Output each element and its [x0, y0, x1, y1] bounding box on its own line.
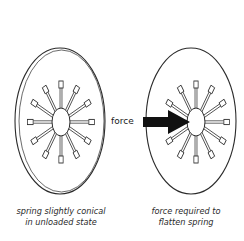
right-caption-line1: force required to: [128, 206, 244, 217]
right-caption: force required to flatten spring: [128, 206, 244, 228]
left-caption-line1: spring slightly conical: [0, 206, 122, 217]
force-label: force: [111, 116, 134, 126]
left-caption: spring slightly conical in unloaded stat…: [0, 206, 122, 228]
left-caption-line2: in unloaded state: [0, 217, 122, 228]
right-caption-line2: flatten spring: [128, 217, 244, 228]
left-spring-disk: [15, 48, 105, 194]
left-hub: [52, 108, 70, 136]
